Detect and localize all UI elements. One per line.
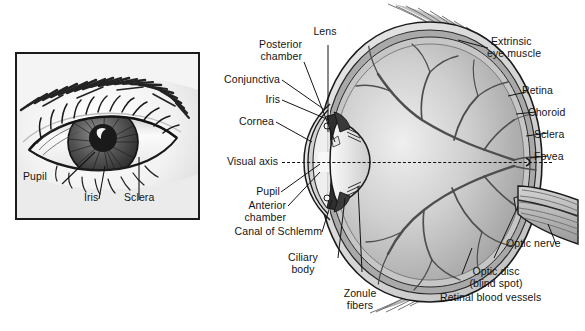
label-extrinsic-eye-muscle-line1: Extrinsic <box>491 36 532 48</box>
label-retina: Retina <box>522 85 553 97</box>
label-cornea: Cornea <box>206 116 274 128</box>
external-eye-illustration <box>17 54 198 218</box>
label-visual-axis: Visual axis <box>204 156 278 168</box>
label-sclera: Sclera <box>534 129 564 141</box>
label-pupil: Pupil <box>216 186 280 198</box>
label-canal-of-schlemm: Canal of Schlemm <box>196 226 322 238</box>
label-optic-nerve: Optic nerve <box>506 238 561 250</box>
label-anterior-chamber-line1: Anterior <box>214 200 286 212</box>
label-optic-disc-line1: Optic disc <box>452 266 540 278</box>
label-ciliary-body-line1: Ciliary <box>268 252 338 264</box>
figure-caption <box>0 323 585 331</box>
ext-label-pupil: Pupil <box>23 171 47 183</box>
label-choroid: Choroid <box>528 107 565 119</box>
label-lens: Lens <box>300 26 350 38</box>
label-posterior-chamber-line1: Posterior <box>228 39 302 51</box>
label-retinal-blood-vessels: Retinal blood vessels <box>440 292 541 304</box>
canal-of-schlemm-inferior <box>324 195 330 201</box>
label-anterior-chamber-line2: chamber <box>214 212 286 224</box>
label-zonule-fibers-line2: fibers <box>330 300 390 312</box>
visual-axis-dashed-line <box>282 162 552 163</box>
label-conjunctiva: Conjunctiva <box>202 74 280 86</box>
external-eye-panel: Pupil Iris Sclera <box>15 52 200 220</box>
label-zonule-fibers-line1: Zonule <box>330 288 390 300</box>
label-iris: Iris <box>216 94 280 106</box>
label-ciliary-body-line2: body <box>268 264 338 276</box>
label-optic-disc-line2: (blind spot) <box>452 278 540 290</box>
ext-label-sclera: Sclera <box>124 192 154 204</box>
label-posterior-chamber-line2: chamber <box>228 51 302 63</box>
eye-anatomy-figure: Pupil Iris Sclera <box>0 0 585 331</box>
label-extrinsic-eye-muscle-line2: eye muscle <box>487 48 541 60</box>
label-fovea: Fovea <box>534 151 564 163</box>
ext-label-iris: Iris <box>84 192 98 204</box>
